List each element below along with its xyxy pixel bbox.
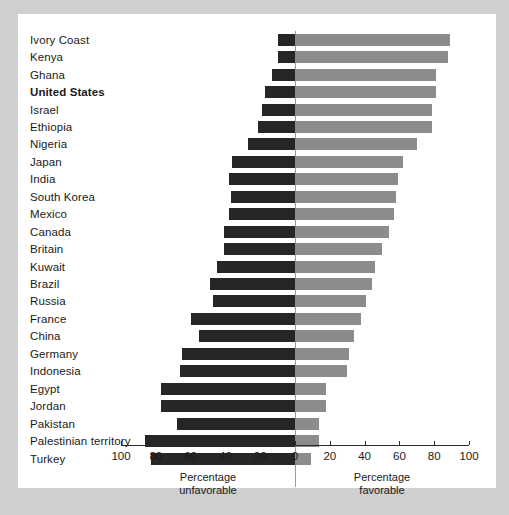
row-label-india: India (30, 173, 55, 185)
bar-unfavorable (258, 121, 295, 133)
x-tick-label: 0 (292, 450, 298, 462)
bar-favorable (295, 243, 382, 255)
bar-favorable (295, 330, 354, 342)
x-axis-line (121, 445, 469, 446)
bar-row: Britain (18, 240, 496, 257)
x-tick (365, 441, 366, 445)
bar-row: Palestinian territory (18, 432, 496, 449)
x-tick (156, 441, 157, 445)
bar-favorable (295, 313, 361, 325)
row-label-britain: Britain (30, 243, 63, 255)
row-label-mexico: Mexico (30, 208, 67, 220)
bar-unfavorable (278, 34, 295, 46)
bar-favorable (295, 156, 403, 168)
bar-favorable (295, 104, 432, 116)
bar-favorable (295, 121, 432, 133)
x-tick-label: 20 (254, 450, 267, 462)
bar-favorable (295, 208, 394, 220)
bar-row: Mexico (18, 206, 496, 223)
chart-panel: Ivory CoastKenyaGhanaUnited StatesIsrael… (18, 14, 496, 488)
row-label-kenya: Kenya (30, 51, 63, 63)
bar-row: Ethiopia (18, 118, 496, 135)
x-tick (225, 441, 226, 445)
bar-unfavorable (231, 191, 295, 203)
bar-favorable (295, 191, 396, 203)
bar-row: Kenya (18, 48, 496, 65)
x-tick-label: 60 (184, 450, 197, 462)
bar-unfavorable (161, 383, 295, 395)
row-label-palestinian-territory: Palestinian territory (30, 435, 131, 447)
bar-unfavorable (177, 418, 295, 430)
bar-favorable (295, 69, 436, 81)
axis-caption-favorable: Percentagefavorable (354, 471, 410, 497)
bar-unfavorable (278, 51, 295, 63)
bar-row: Russia (18, 293, 496, 310)
bar-row: Ivory Coast (18, 31, 496, 48)
bar-favorable (295, 365, 347, 377)
bar-unfavorable (224, 226, 295, 238)
bar-row: Kuwait (18, 258, 496, 275)
bar-favorable (295, 278, 372, 290)
bar-favorable (295, 295, 366, 307)
bar-row: Nigeria (18, 136, 496, 153)
x-tick-label: 100 (111, 450, 130, 462)
bar-row: Indonesia (18, 363, 496, 380)
row-label-south-korea: South Korea (30, 191, 95, 203)
bar-favorable (295, 86, 436, 98)
x-tick (260, 441, 261, 445)
bar-favorable (295, 383, 326, 395)
row-label-japan: Japan (30, 156, 62, 168)
x-tick (191, 441, 192, 445)
bar-unfavorable (217, 261, 295, 273)
bar-row: Ghana (18, 66, 496, 83)
bar-unfavorable (210, 278, 295, 290)
x-tick (121, 441, 122, 445)
x-tick-label: 20 (323, 450, 336, 462)
bar-favorable (295, 173, 398, 185)
axis-caption-unfavorable: Percentageunfavorable (179, 471, 237, 497)
bar-unfavorable (191, 313, 295, 325)
row-label-indonesia: Indonesia (30, 365, 81, 377)
bar-row: South Korea (18, 188, 496, 205)
bar-favorable (295, 348, 349, 360)
bar-row: Germany (18, 345, 496, 362)
row-label-france: France (30, 313, 66, 325)
bar-favorable (295, 138, 417, 150)
row-label-united-states: United States (30, 86, 105, 98)
x-tick (295, 441, 296, 445)
bar-unfavorable (265, 86, 295, 98)
row-label-canada: Canada (30, 226, 71, 238)
row-label-ivory-coast: Ivory Coast (30, 34, 89, 46)
x-tick (399, 441, 400, 445)
row-label-kuwait: Kuwait (30, 261, 65, 273)
row-label-russia: Russia (30, 295, 66, 307)
bar-row: China (18, 328, 496, 345)
bar-favorable (295, 34, 450, 46)
row-label-germany: Germany (30, 348, 78, 360)
bar-unfavorable (229, 173, 295, 185)
row-label-turkey: Turkey (30, 453, 65, 465)
row-label-pakistan: Pakistan (30, 418, 75, 430)
bar-favorable (295, 400, 326, 412)
bar-favorable (295, 226, 389, 238)
bar-unfavorable (229, 208, 295, 220)
row-label-nigeria: Nigeria (30, 138, 67, 150)
row-label-china: China (30, 330, 61, 342)
bar-favorable (295, 51, 448, 63)
bar-row: Canada (18, 223, 496, 240)
row-label-egypt: Egypt (30, 383, 60, 395)
figure-background: Ivory CoastKenyaGhanaUnited StatesIsrael… (0, 0, 509, 515)
bar-favorable (295, 261, 375, 273)
plot-area: Ivory CoastKenyaGhanaUnited StatesIsrael… (18, 14, 496, 488)
x-tick-label: 60 (393, 450, 406, 462)
row-label-ethiopia: Ethiopia (30, 121, 72, 133)
bar-row: United States (18, 83, 496, 100)
x-tick-label: 40 (219, 450, 232, 462)
bar-row: Pakistan (18, 415, 496, 432)
bar-row: Japan (18, 153, 496, 170)
bar-favorable (295, 418, 319, 430)
bar-unfavorable (262, 104, 295, 116)
x-tick (434, 441, 435, 445)
x-tick-label: 100 (459, 450, 478, 462)
bar-unfavorable (213, 295, 295, 307)
